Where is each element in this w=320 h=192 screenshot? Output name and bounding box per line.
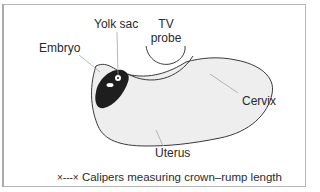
legend: ×---× Calipers measuring crown–rump leng… [57,171,282,183]
cervix-label: Cervix [242,95,276,108]
yolk-sac-label: Yolk sac [94,18,138,31]
tv-probe-arc-inner [146,46,185,64]
tv-probe-label-line2: probe [148,32,184,45]
yolk-sac-leader [117,32,118,75]
embryo-label: Embryo [39,42,80,55]
caliper-symbol: ×---× [57,172,79,183]
embryo-shape [107,83,114,87]
uterus-label: Uterus [155,147,190,160]
tv-probe-label-line1: TV [148,18,184,31]
embryo-leader [79,55,100,72]
legend-text: Calipers measuring crown–rump length [82,171,282,183]
